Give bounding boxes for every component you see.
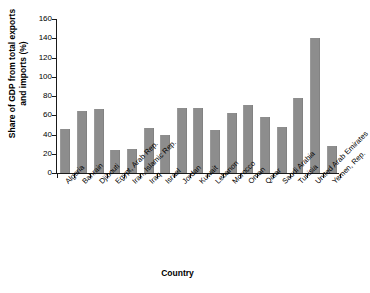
y-tick-label: 160: [28, 15, 52, 23]
y-tick: [52, 173, 56, 174]
y-axis-title: Share of GDP from total exports and impo…: [7, 0, 28, 154]
y-tick-label: 80: [28, 92, 52, 100]
bar-slot: [190, 19, 207, 173]
bar: [277, 127, 287, 173]
bar-slot: [90, 19, 107, 173]
y-tick: [52, 115, 56, 116]
bar-slot: [257, 19, 274, 173]
y-tick-label: 140: [28, 34, 52, 42]
y-tick: [52, 38, 56, 39]
y-tick-label: 120: [28, 54, 52, 62]
y-tick: [52, 19, 56, 20]
bar-slot: [207, 19, 224, 173]
bar-slot: [223, 19, 240, 173]
y-tick: [52, 77, 56, 78]
bar-slot: [124, 19, 141, 173]
bar-slot: [240, 19, 257, 173]
x-tick: [57, 174, 58, 178]
y-tick: [52, 154, 56, 155]
y-tick-label: 60: [28, 111, 52, 119]
bar-slot: [74, 19, 91, 173]
x-axis-title: Country: [0, 268, 355, 278]
bar-slot: [323, 19, 340, 173]
bar-slot: [107, 19, 124, 173]
plot-area: 020406080100120140160: [56, 19, 339, 174]
bar: [60, 129, 70, 173]
y-axis-title-line2: and imports (%): [17, 0, 28, 154]
y-tick-label: 100: [28, 73, 52, 81]
y-tick: [52, 135, 56, 136]
bar: [260, 117, 270, 173]
bar-slot: [57, 19, 74, 173]
y-axis-title-line1: Share of GDP from total exports: [7, 0, 18, 154]
bars-group: [57, 19, 339, 173]
bar: [177, 108, 187, 173]
bar-slot: [290, 19, 307, 173]
y-tick-label: 0: [28, 169, 52, 177]
bar-slot: [174, 19, 191, 173]
x-axis-tick-labels: AlgeriaBahrainDjiboutiEgypt, Arab Rep.Ir…: [56, 180, 356, 260]
y-tick: [52, 58, 56, 59]
bar-slot: [273, 19, 290, 173]
y-tick-label: 40: [28, 131, 52, 139]
y-tick-label: 20: [28, 150, 52, 158]
y-tick: [52, 96, 56, 97]
